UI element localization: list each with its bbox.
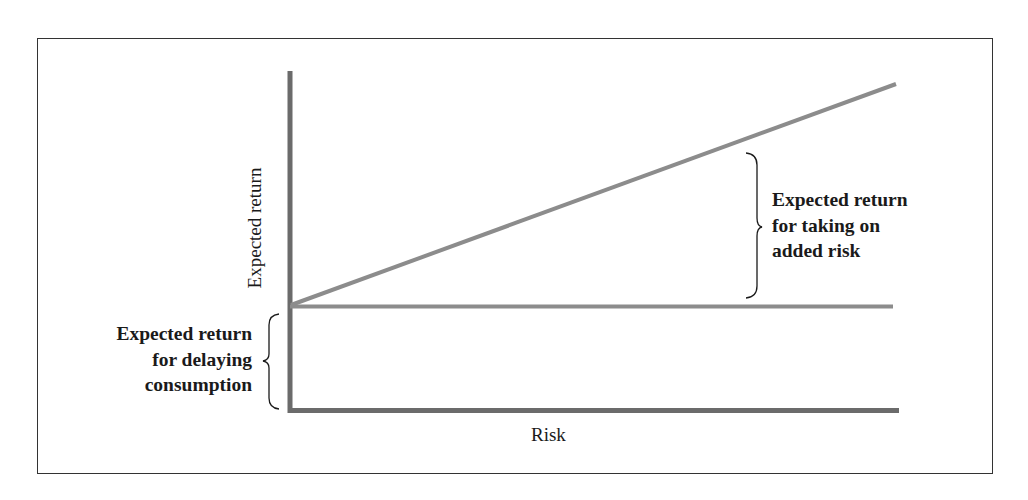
- y-axis-label: Expected return: [244, 168, 266, 289]
- left-brace-icon: [263, 314, 279, 409]
- annotation-line: added risk: [772, 238, 908, 264]
- annotation-line: consumption: [116, 372, 252, 398]
- annotation-line: for taking on: [772, 213, 908, 239]
- time-value-annotation: Expected return for delaying consumption: [116, 321, 252, 398]
- annotation-line: for delaying: [116, 347, 252, 373]
- right-brace-icon: [746, 153, 762, 298]
- x-axis-label: Risk: [531, 424, 566, 446]
- annotation-line: Expected return: [772, 187, 908, 213]
- risk-premium-annotation: Expected return for taking on added risk: [772, 187, 908, 264]
- annotation-line: Expected return: [116, 321, 252, 347]
